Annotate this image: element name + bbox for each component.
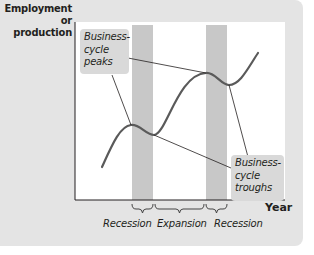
recession-shading-1 [132,25,153,200]
recession-brace-1 [132,204,153,213]
troughs-callout-line-2: cycle [235,170,280,183]
expansion-brace [155,204,204,213]
business-cycle-plot [0,0,314,255]
phase-label-expansion: Expansion [157,218,207,229]
troughs-callout-line-3: troughs [235,182,280,195]
phase-label-recession-1: Recession [103,218,152,229]
troughs-callout-line-1: Business- [235,157,280,170]
peaks-callout-line-1: Business- [84,31,125,44]
peaks-callout-line-3: peaks [84,56,125,69]
troughs-callout: Business- cycle troughs [231,155,284,201]
phase-label-recession-2: Recession [214,218,263,229]
recession-brace-2 [206,204,227,213]
peaks-callout: Business- cycle peaks [80,29,129,74]
x-axis-label: Year [265,201,292,214]
recession-shading-2 [206,25,227,200]
peaks-callout-line-2: cycle [84,44,125,57]
